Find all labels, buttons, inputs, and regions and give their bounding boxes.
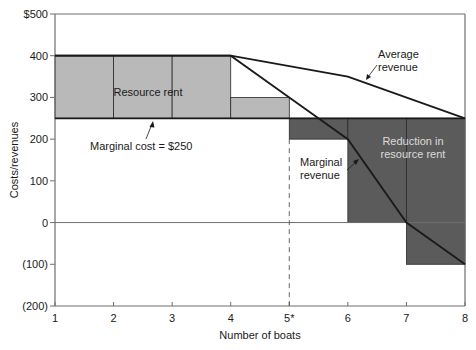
average-revenue-arrowhead (366, 74, 371, 80)
marginal-revenue-label-line2: revenue (300, 169, 340, 181)
average-revenue-label-line2: revenue (378, 61, 418, 73)
y-tick-label: (100) (22, 258, 48, 270)
y-tick-label: (200) (22, 300, 48, 312)
chart: $5004003002001000(100)(200)12345*678 Res… (0, 0, 476, 350)
reduction-label-line1: Reduction in (382, 135, 443, 147)
y-tick-label: 400 (30, 50, 48, 62)
resource-rent-bar (231, 97, 290, 118)
reduction-rent-bar (348, 118, 407, 222)
resource-rent-label: Resource rent (113, 86, 182, 98)
y-tick-label: 300 (30, 91, 48, 103)
x-tick-label: 3 (169, 312, 175, 324)
reduction-label-line2: resource rent (381, 148, 446, 160)
reduction-rent-bar (289, 118, 348, 139)
resource-rent-bar (55, 56, 114, 119)
x-axis-title: Number of boats (219, 329, 301, 341)
marginal-revenue-label-line1: Marginal (300, 156, 342, 168)
x-tick-label: 2 (111, 312, 117, 324)
x-tick-label: 1 (52, 312, 58, 324)
x-tick-label: 6 (345, 312, 351, 324)
y-tick-label: 0 (42, 217, 48, 229)
y-tick-label: 200 (30, 133, 48, 145)
x-tick-label: 8 (462, 312, 468, 324)
y-tick-label: 100 (30, 175, 48, 187)
average-revenue-label-line1: Average (378, 48, 419, 60)
average-revenue-arrow (368, 65, 377, 77)
y-axis-title: Costs/revenues (8, 121, 20, 198)
y-tick-label: $500 (24, 8, 48, 20)
x-tick-label: 5* (284, 312, 295, 324)
x-tick-label: 4 (228, 312, 234, 324)
marginal-cost-arrowhead (150, 121, 155, 128)
x-tick-label: 7 (403, 312, 409, 324)
marginal-cost-label: Marginal cost = $250 (90, 140, 192, 152)
